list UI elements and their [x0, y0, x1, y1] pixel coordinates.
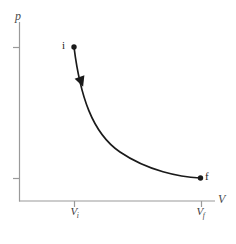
point-label-i: i [62, 40, 65, 51]
point-label-f: f [205, 171, 209, 182]
x-tick-label-vf: Vf [192, 206, 210, 217]
tick-label-vf-sub: f [203, 211, 205, 220]
y-axis-label: p [15, 10, 21, 22]
pv-diagram-figure: p V Vi Vf i f [0, 0, 236, 244]
tick-label-vi-sub: i [77, 211, 79, 220]
x-axis-label: V [218, 193, 225, 205]
isotherm-curve [74, 47, 200, 178]
point-marker-f [198, 175, 203, 180]
point-marker-i [71, 44, 76, 49]
x-tick-label-vi: Vi [66, 206, 84, 217]
